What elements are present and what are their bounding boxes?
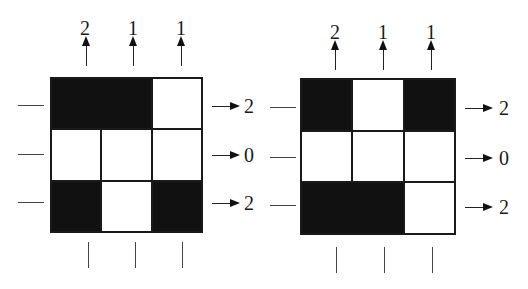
left-grid [50, 77, 203, 233]
right-row-count-2: 0 [499, 148, 509, 168]
cell-filled [302, 80, 351, 130]
col-input-line [135, 242, 136, 268]
row-input-line [270, 205, 296, 206]
right-arrow-icon [465, 108, 487, 109]
up-arrow-icon [86, 44, 87, 66]
cell-filled [52, 182, 100, 231]
cell-empty [302, 132, 351, 182]
cell-filled [405, 80, 454, 130]
cell-empty [353, 132, 402, 182]
col-input-line [182, 242, 183, 268]
right-arrow-icon [465, 207, 487, 208]
left-col-count-2: 1 [128, 18, 138, 38]
cell-empty [102, 130, 150, 179]
up-arrow-icon [335, 48, 336, 70]
up-arrow-icon [383, 48, 384, 70]
cell-empty [405, 132, 454, 182]
up-arrow-icon [431, 48, 432, 70]
up-arrow-icon [181, 44, 182, 66]
right-col-count-1: 2 [330, 22, 340, 42]
left-col-count-1: 2 [80, 18, 90, 38]
cell-empty [153, 79, 201, 128]
col-input-line [432, 247, 433, 273]
up-arrow-icon [133, 44, 134, 66]
col-input-line [336, 247, 337, 273]
right-arrow-icon [465, 158, 487, 159]
right-col-count-2: 1 [378, 22, 388, 42]
right-arrow-icon [212, 203, 234, 204]
cell-filled [153, 182, 201, 231]
row-input-line [18, 105, 44, 106]
row-input-line [18, 154, 44, 155]
cell-empty [52, 130, 100, 179]
right-row-count-3: 2 [499, 197, 509, 217]
col-input-line [384, 247, 385, 273]
col-input-line [88, 242, 89, 268]
right-col-count-3: 1 [426, 22, 436, 42]
left-row-count-2: 0 [244, 145, 254, 165]
cell-empty [102, 182, 150, 231]
right-grid [300, 78, 456, 235]
left-row-count-3: 2 [244, 193, 254, 213]
row-input-line [270, 107, 296, 108]
cell-filled [100, 79, 150, 128]
right-arrow-icon [212, 106, 234, 107]
right-arrow-icon [212, 155, 234, 156]
row-input-line [18, 202, 44, 203]
row-input-line [270, 157, 296, 158]
cell-filled [302, 183, 351, 233]
right-row-count-1: 2 [499, 98, 509, 118]
cell-empty [353, 80, 402, 130]
cell-empty [405, 183, 454, 233]
left-col-count-3: 1 [176, 18, 186, 38]
cell-filled [52, 79, 100, 128]
cell-empty [153, 130, 201, 179]
cell-filled [351, 183, 402, 233]
left-row-count-1: 2 [244, 96, 254, 116]
